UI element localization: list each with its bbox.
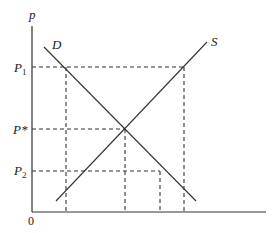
supply-demand-diagram: p 0 D S P1 P* P2 [0, 0, 275, 233]
y-axis-label: p [28, 7, 36, 22]
demand-curve [44, 47, 196, 201]
pstar-label: P* [12, 122, 28, 137]
p2-label: P2 [13, 163, 26, 180]
supply-label: S [211, 34, 218, 49]
demand-label: D [51, 37, 62, 52]
p1-label: P1 [13, 60, 26, 77]
origin-label: 0 [28, 214, 34, 228]
supply-curve [56, 42, 207, 201]
